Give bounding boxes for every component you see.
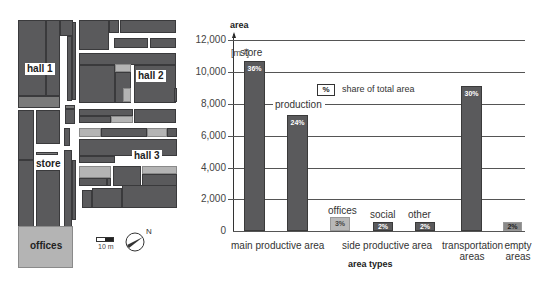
north-label: N [146,227,152,236]
map-block [114,38,148,48]
map-block [134,109,176,123]
map-block-light [79,128,101,137]
x-group-transport-line2: areas [459,251,484,262]
y-tick: 8,000 [176,98,226,109]
y-tick: 4,000 [176,162,226,173]
map-block [36,110,60,144]
bar-store: 36% [244,61,265,231]
bar-pct: 2% [416,223,434,230]
bar-production: 24% [287,115,308,231]
legend-percent-icon: % [317,84,335,96]
y-axis-title: area [230,20,249,30]
x-group-side-productive: side productive area [342,240,432,251]
x-group-transportation: transportation areas [442,240,502,262]
map-block [79,139,177,156]
gridline-12000 [228,40,525,41]
bar-pct: 36% [245,65,264,72]
x-group-transport-line1: transportation [442,240,503,251]
bar-empty: 2% [503,222,522,231]
map-block-light [142,166,177,174]
map-block-light [123,88,131,102]
bar-pct: 2% [504,223,521,230]
x-group-main-productive: main productive area [231,240,324,251]
map-block [18,20,46,96]
x-group-empty: empty areas [503,240,533,262]
factory-floor-plan: offices hall 1 hall 2 hall 3 store 10 m … [0,0,180,283]
map-label-offices: offices [30,240,62,251]
bar-offices: 3% [330,217,350,231]
bar-other: 2% [415,222,435,231]
x-group-empty-line1: empty [504,240,531,251]
x-axis-title: area types [348,259,393,269]
map-block [109,20,119,33]
y-axis-line [233,34,234,232]
map-block-light [111,116,133,123]
compass-north-icon [125,232,145,252]
map-block [79,116,111,123]
map-block [82,190,92,208]
map-block [79,65,115,103]
map-block [79,20,109,50]
map-block [64,128,70,146]
map-block [113,166,141,186]
bar-social: 2% [373,222,393,231]
map-block [122,185,177,208]
map-block [72,160,76,220]
map-block [92,188,122,208]
gridline-10000 [228,72,525,73]
scale-bar-icon [96,237,114,242]
map-block [150,38,176,48]
bar-label-offices: offices [328,205,357,216]
bar-label-store: store [240,47,262,58]
map-label-hall1: hall 1 [25,63,55,75]
map-label-hall3: hall 3 [132,150,162,162]
bar-pct: 30% [462,90,481,97]
bar-pct: 24% [288,119,307,126]
gridline-8000-b [325,104,525,105]
bar-label-social: social [370,209,396,220]
bar-pct: 2% [374,223,392,230]
scale-label: 10 m [98,243,114,250]
bar-pct: 3% [331,220,349,227]
map-block-light [115,64,131,72]
map-block-light [147,128,167,137]
x-group-empty-line2: areas [505,251,530,262]
map-block-light [79,166,111,178]
x-axis-line [233,231,525,232]
bar-label-other: other [408,209,431,220]
map-block [64,150,72,230]
map-block [79,178,107,186]
map-block [72,22,76,100]
y-tick: 12,000 [176,34,226,45]
y-tick: 2,000 [176,193,226,204]
map-block [107,178,111,186]
y-tick: 0 [176,225,226,236]
y-tick: 10,000 [176,66,226,77]
map-block [36,152,58,155]
y-tick: 6,000 [176,130,226,141]
map-label-hall2: hall 2 [136,70,166,82]
map-block [18,110,34,160]
bar-label-production: production [275,99,322,110]
map-label-store: store [34,158,62,170]
legend-text: share of total area [342,84,415,94]
map-block [120,20,176,33]
map-block [79,156,115,163]
map-block [101,128,147,137]
map-block [79,109,133,116]
map-block [65,109,75,124]
bar-transportation: 30% [461,86,482,231]
map-block [18,96,60,108]
map-block [46,20,60,96]
